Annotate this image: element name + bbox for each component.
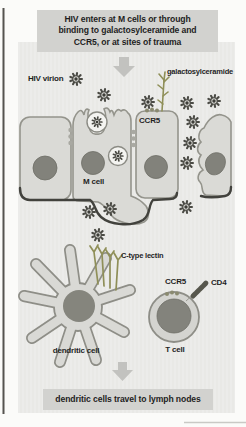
vesicle-with-virion <box>109 147 128 166</box>
hiv-virion-icon <box>98 89 110 101</box>
hiv-virion-icon <box>70 73 82 85</box>
bottom-caption-box: dendritic cells travel to lymph nodes <box>43 389 213 410</box>
hiv-virion-icon <box>92 229 104 241</box>
bottom-caption-text: dendritic cells travel to lymph nodes <box>55 394 200 406</box>
cd4-receptor-icon <box>193 283 206 296</box>
epithelial-layer <box>20 72 231 224</box>
nucleus <box>157 299 191 333</box>
c-type-lectin-label: C-type lectin <box>121 252 163 260</box>
top-caption-line2: binding to galactosylceramide and <box>58 25 196 37</box>
nucleus <box>82 152 105 175</box>
nucleus <box>63 290 95 322</box>
hiv-virion-icon <box>184 137 196 149</box>
galactosylceramide-icon <box>158 72 169 111</box>
nucleus <box>33 156 57 180</box>
hiv-virion-icon <box>180 201 192 213</box>
t-cell-shape <box>149 283 206 342</box>
top-caption-box: HIV enters at M cells or through binding… <box>37 10 218 52</box>
diagram-artwork <box>0 0 246 427</box>
hiv-virion-icon <box>208 95 220 107</box>
hiv-virion-icon <box>187 116 199 128</box>
top-caption-line1: HIV enters at M cells or through <box>64 14 190 26</box>
hiv-virion-icon <box>83 206 95 218</box>
cd4-label: CD4 <box>211 279 226 287</box>
dendritic-cell-label: dendritic cell <box>45 347 107 355</box>
t-cell-label: T cell <box>158 346 192 354</box>
hiv-virion-icon <box>181 97 193 109</box>
figure-page: { "figure": { "top_box": { "line1": "HIV… <box>0 0 246 427</box>
down-arrow-icon <box>112 362 133 381</box>
ccr5-epithelial-label: CCR5 <box>139 117 160 125</box>
down-arrow-icon <box>113 57 135 77</box>
galactosylceramide-label: galactosylceramide <box>152 68 233 76</box>
vesicle-with-virion <box>87 112 107 132</box>
nucleus <box>145 156 168 179</box>
top-caption-line3: CCR5, or at sites of trauma <box>74 37 182 49</box>
ccr5-tcell-label: CCR5 <box>165 278 186 286</box>
m-cell-label: M cell <box>83 178 104 186</box>
hiv-virion-icon <box>181 157 193 169</box>
hiv-virion-icon <box>142 96 154 108</box>
hiv-virion-label: HIV virion <box>28 75 63 83</box>
